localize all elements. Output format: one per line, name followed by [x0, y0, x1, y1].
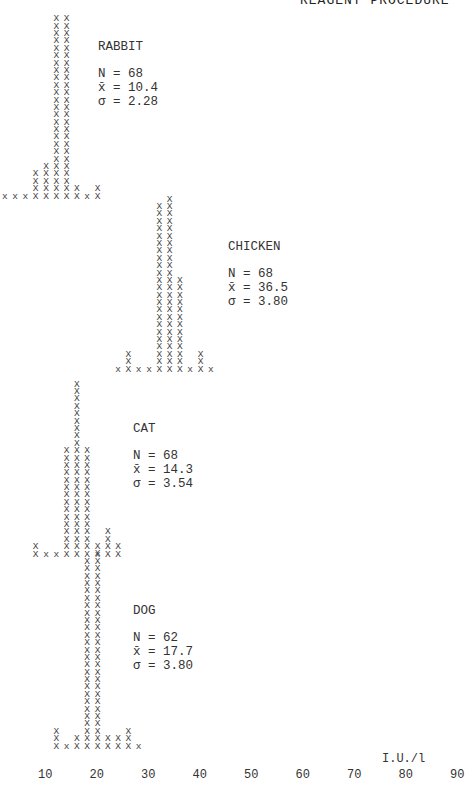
- histogram-bar: XXX: [124, 728, 132, 750]
- x-tick-label: 80: [399, 768, 413, 782]
- histogram-bar: XXXXXXXXXXXXXXXXXXXXXXXXX: [63, 15, 71, 200]
- x-tick-label: 40: [193, 768, 207, 782]
- histogram-bar: XX: [32, 543, 40, 558]
- histogram-bar: XXXXXXXXXXXXXXXXXXXXXXXXXXXX: [94, 543, 102, 750]
- stats-block: DOGN = 62x̄ = 17.7σ = 3.80: [133, 604, 193, 673]
- x-tick-label: 60: [296, 768, 310, 782]
- histogram-bar: XX: [94, 185, 102, 200]
- page-header: REAGENT PROCEDURE: [300, 0, 450, 8]
- x-tick-label: 90: [450, 768, 464, 782]
- histogram-bar: XX: [73, 185, 81, 200]
- sd-value: σ = 3.80: [133, 659, 193, 673]
- histogram-bar: XXXXX: [42, 163, 50, 200]
- histogram-bar: XXXXXXXXXXXXXXXXXXXXXXXXX: [52, 15, 60, 200]
- sd-value: σ = 3.54: [133, 477, 193, 491]
- histogram-bar: XXX: [124, 351, 132, 373]
- histogram-bar: x: [83, 193, 91, 200]
- n-value: N = 68: [133, 449, 193, 463]
- histogram-bar: x: [52, 551, 60, 558]
- histogram-bar: XXXX: [104, 528, 112, 558]
- histogram-bar: XX: [73, 735, 81, 750]
- histogram-bar: x: [135, 743, 143, 750]
- histogram-bar: x: [114, 366, 122, 373]
- species-label: CAT: [133, 422, 193, 436]
- mean-value: x̄ = 36.5: [228, 281, 288, 295]
- stats-block: CATN = 68x̄ = 14.3σ = 3.54: [133, 422, 193, 491]
- histogram-bar: x: [21, 193, 29, 200]
- histogram-bar: XXXXXXXXXXXXX: [176, 277, 184, 373]
- x-tick-label: 30: [141, 768, 155, 782]
- histogram-bar: XXXXXXXXXXXXXXX: [63, 447, 71, 558]
- mean-value: x̄ = 14.3: [133, 463, 193, 477]
- x-axis-unit-label: I.U./l: [382, 752, 425, 766]
- stats-block: CHICKENN = 68x̄ = 36.5σ = 3.80: [228, 240, 288, 309]
- histogram-bar: XXXXXXXXXXXXXXXXXXXXXXXX: [73, 380, 81, 558]
- histogram-bar: XXX: [197, 351, 205, 373]
- histogram-bar: x: [63, 743, 71, 750]
- histogram-bar: XXXXXXXXXXXXXXX: [83, 447, 91, 558]
- mean-value: x̄ = 17.7: [133, 645, 193, 659]
- histogram-bar: XXXX: [32, 170, 40, 200]
- species-label: RABBIT: [98, 40, 158, 54]
- histogram-bar: x: [186, 366, 194, 373]
- histogram-bar: x: [207, 366, 215, 373]
- histogram-bar: x: [135, 366, 143, 373]
- species-label: DOG: [133, 604, 193, 618]
- sd-value: σ = 3.80: [228, 295, 288, 309]
- x-tick-label: 10: [38, 768, 52, 782]
- histogram-bar: XXX: [52, 728, 60, 750]
- x-tick-label: 20: [90, 768, 104, 782]
- histogram-bar: XXXXXXXXXXXXXXXXXXXXXXXX: [166, 195, 174, 373]
- histogram-bar: XX: [104, 735, 112, 750]
- species-label: CHICKEN: [228, 240, 288, 254]
- mean-value: x̄ = 10.4: [98, 81, 158, 95]
- histogram-bar: x: [42, 551, 50, 558]
- histogram-bar: XXXXXXXXXXXXXXXXXXXXXXX: [155, 203, 163, 373]
- histogram-bar: XX: [114, 735, 122, 750]
- sd-value: σ = 2.28: [98, 95, 158, 109]
- x-tick-label: 50: [244, 768, 258, 782]
- x-tick-label: 70: [347, 768, 361, 782]
- stats-block: RABBITN = 68x̄ = 10.4σ = 2.28: [98, 40, 158, 109]
- n-value: N = 68: [228, 267, 288, 281]
- n-value: N = 62: [133, 631, 193, 645]
- histogram-bar: XXXXXXXXXXXXXXXXXXXXXXXXXX: [83, 558, 91, 750]
- n-value: N = 68: [98, 67, 158, 81]
- histogram-bar: XX: [114, 543, 122, 558]
- histogram-bar: x: [11, 193, 19, 200]
- histogram-bar: x: [145, 366, 153, 373]
- histogram-bar: x: [1, 193, 9, 200]
